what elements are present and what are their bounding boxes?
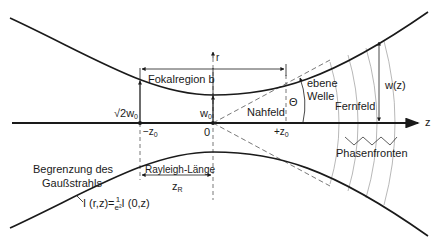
phase-fronts-label: Phasenfronten bbox=[336, 148, 408, 159]
sqrt2w0-label: √2w0 bbox=[114, 108, 138, 120]
phase-front-bracket bbox=[345, 137, 397, 145]
boundary-label-1: Begrenzung des bbox=[33, 164, 113, 175]
minus-z0-label: −z0 bbox=[143, 127, 158, 138]
near-field-label: Nahfeld bbox=[247, 107, 285, 118]
zr-label: zR bbox=[172, 181, 183, 193]
focal-region-label: Fokalregion b bbox=[148, 74, 215, 85]
plus-z0-label: +z0 bbox=[274, 127, 289, 138]
origin-label: 0 bbox=[204, 127, 210, 138]
far-field-label: Fernfeld bbox=[335, 101, 375, 112]
r-axis-label: r bbox=[216, 53, 219, 63]
z-axis-label: z bbox=[425, 117, 431, 128]
plane-wave-label-1: ebene bbox=[307, 78, 338, 89]
w0-label: w0 bbox=[200, 108, 212, 120]
gaussian-beam-diagram: r z Fokalregion b √2w0 w0 −z0 0 +z0 Nahf… bbox=[0, 0, 441, 247]
intensity-formula: I (r,z)=1e²I (0,z) bbox=[83, 196, 150, 212]
rayleigh-length-label: Rayleigh-Länge bbox=[145, 165, 215, 175]
theta-label: Θ bbox=[289, 97, 298, 108]
plane-wave-label-2: Welle bbox=[307, 91, 334, 102]
boundary-label-2: Gaußstrahls bbox=[42, 178, 102, 189]
diagram-graphics bbox=[0, 0, 441, 247]
beam-width-label: w(z) bbox=[385, 80, 406, 91]
